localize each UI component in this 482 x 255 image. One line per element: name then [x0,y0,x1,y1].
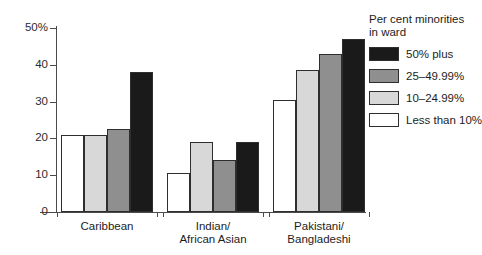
plot-area [57,28,365,212]
legend-swatch [369,91,399,105]
y-axis-tick-label: 50% [0,22,48,34]
bar [167,173,190,212]
y-axis-tick [50,175,56,176]
bar [319,54,342,212]
y-axis-tick-label: 40 [0,59,48,71]
legend-item: 25–49.99% [369,67,478,85]
y-axis-tick [50,212,56,213]
legend-label: 10–24.99% [406,92,464,104]
y-axis-tick-label: 30 [0,96,48,108]
bar [61,135,84,212]
x-axis-line [40,212,366,213]
y-axis-tick [50,102,56,103]
bar-group [61,28,153,212]
x-axis-category-label: Pakistani/ Bangladeshi [259,220,379,246]
y-axis-tick-text: 20 [2,132,48,144]
y-axis-tick-text: 30 [2,96,48,108]
x-axis-group-tick [57,212,58,217]
bar [342,39,365,212]
y-axis-tick-label: 10 [0,169,48,181]
y-axis-tick-text: 0 [2,206,48,218]
x-axis-group-tick [163,212,164,217]
y-axis-tick-text: 10 [2,169,48,181]
bar [130,72,153,212]
legend-item: 50% plus [369,45,478,63]
legend-swatch [369,47,399,61]
y-axis-tick [50,28,56,29]
y-axis-tick [50,138,56,139]
legend-label: Less than 10% [406,114,482,126]
legend-swatch [369,69,399,83]
x-axis-group-tick [269,212,270,217]
y-axis-tick [50,65,56,66]
y-axis-tick-text: 40 [2,59,48,71]
y-axis-tick-label: 0 [0,206,48,218]
x-axis-group-tick [157,212,158,217]
bar [296,70,319,212]
y-axis-tick-text: 50% [2,22,48,34]
x-axis-group-tick [263,212,264,217]
legend-label: 25–49.99% [406,70,464,82]
legend-label: 50% plus [406,48,453,60]
y-axis-tick-label: 20 [0,132,48,144]
bar [213,160,236,212]
x-axis-group-tick [369,212,370,217]
bar [107,129,130,212]
bar [273,100,296,212]
x-axis-category-label: Indian/ African Asian [153,220,273,246]
bar [190,142,213,212]
legend-item: Less than 10% [369,111,478,129]
bar [236,142,259,212]
bar [84,135,107,212]
legend-title: Per cent minorities in ward [369,13,478,39]
x-axis-category-label: Caribbean [47,220,167,233]
bar-group [273,28,365,212]
legend-items: 50% plus25–49.99%10–24.99%Less than 10% [369,45,478,129]
chart-legend: Per cent minorities in ward 50% plus25–4… [369,13,478,133]
legend-item: 10–24.99% [369,89,478,107]
bar-group [167,28,259,212]
legend-swatch [369,113,399,127]
